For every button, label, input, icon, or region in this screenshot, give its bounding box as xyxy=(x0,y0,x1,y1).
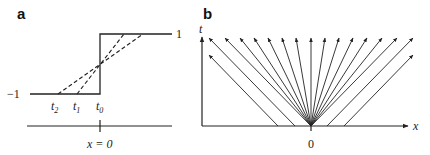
x-zero-label: x = 0 xyxy=(86,137,112,151)
time-label-t2: t2 xyxy=(51,99,58,115)
y-low-label: −1 xyxy=(7,87,20,101)
origin-label: 0 xyxy=(308,137,314,151)
figure: a 1 −1 t2 t1 t0 x = 0 b t x 0 xyxy=(0,0,430,155)
t-axis-label: t xyxy=(199,22,203,36)
characteristic-fan xyxy=(225,38,397,126)
time-label-t0: t0 xyxy=(96,99,103,115)
panel-b: b t x 0 xyxy=(199,5,419,151)
time-label-t1: t1 xyxy=(73,99,80,115)
x-axis-label: x xyxy=(412,119,419,133)
panel-a: a 1 −1 t2 t1 t0 x = 0 xyxy=(7,5,182,151)
right-characteristics xyxy=(327,38,413,126)
y-high-label: 1 xyxy=(176,27,182,41)
panel-b-label: b xyxy=(203,5,212,22)
panel-a-label: a xyxy=(17,5,26,22)
